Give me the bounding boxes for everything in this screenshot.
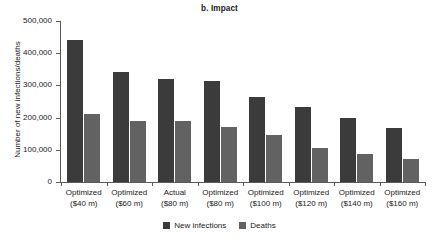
bar-new-infections <box>386 128 402 182</box>
category-label-line2: ($160 m) <box>380 199 426 210</box>
chart-legend: New infectionsDeaths <box>0 221 439 230</box>
y-tick-label: 0 <box>0 177 52 186</box>
x-axis-category-label: Optimized($40 m) <box>61 188 107 209</box>
legend-item[interactable]: Deaths <box>239 221 275 230</box>
x-axis-tick-mark <box>107 182 108 186</box>
x-axis-category-label: Optimized($60 m) <box>107 188 153 209</box>
category-label-line2: ($100 m) <box>243 199 289 210</box>
bar-new-infections <box>340 118 356 182</box>
x-axis-category-label: Optimized($120 m) <box>289 188 335 209</box>
chart-title: b. Impact <box>0 4 439 13</box>
category-label-line2: ($40 m) <box>61 199 107 210</box>
x-axis-tick-mark <box>152 182 153 186</box>
x-axis-tick-mark <box>425 182 426 186</box>
bar-new-infections <box>295 107 311 182</box>
category-label-line2: ($60 m) <box>107 199 153 210</box>
y-tick-label: 100,000 <box>0 145 52 154</box>
x-axis-tick-mark <box>289 182 290 186</box>
bar-deaths <box>266 135 282 182</box>
bar-deaths <box>175 121 191 182</box>
x-axis-tick-mark <box>61 182 62 186</box>
bar-new-infections <box>158 79 174 182</box>
x-axis-category-label: Optimized($100 m) <box>243 188 289 209</box>
bar-deaths <box>312 148 328 182</box>
x-axis-tick-mark <box>380 182 381 186</box>
category-label-line1: Optimized <box>61 188 107 199</box>
bar-new-infections <box>249 97 265 182</box>
legend-swatch-icon <box>239 222 246 229</box>
y-tick-label: 400,000 <box>0 48 52 57</box>
legend-item[interactable]: New infections <box>163 221 226 230</box>
y-axis-tick-labels: 0100,000200,000300,000400,000500,000 <box>0 0 61 240</box>
x-axis-category-label: Optimized($80 m) <box>198 188 244 209</box>
bar-deaths <box>130 121 146 182</box>
category-label-line1: Actual <box>152 188 198 199</box>
category-label-line1: Optimized <box>107 188 153 199</box>
bar-deaths <box>403 159 419 182</box>
bar-deaths <box>221 127 237 182</box>
category-label-line1: Optimized <box>289 188 335 199</box>
x-axis-category-label: Optimized($160 m) <box>380 188 426 209</box>
bar-new-infections <box>204 81 220 182</box>
chart-figure: b. Impact Number of new infections/death… <box>0 0 439 240</box>
bar-deaths <box>84 114 100 182</box>
bar-new-infections <box>113 72 129 182</box>
x-axis-category-label: Optimized($140 m) <box>334 188 380 209</box>
bar-new-infections <box>67 40 83 182</box>
legend-swatch-icon <box>163 222 170 229</box>
category-label-line1: Optimized <box>243 188 289 199</box>
legend-label: New infections <box>174 221 226 230</box>
y-tick-label: 300,000 <box>0 80 52 89</box>
category-label-line2: ($80 m) <box>198 199 244 210</box>
y-tick-label: 500,000 <box>0 16 52 25</box>
x-axis-tick-mark <box>334 182 335 186</box>
category-label-line2: ($80 m) <box>152 199 198 210</box>
category-label-line1: Optimized <box>198 188 244 199</box>
y-tick-label: 200,000 <box>0 113 52 122</box>
legend-label: Deaths <box>250 221 275 230</box>
x-axis-tick-mark <box>198 182 199 186</box>
x-axis-category-label: Actual($80 m) <box>152 188 198 209</box>
category-label-line1: Optimized <box>380 188 426 199</box>
category-label-line2: ($140 m) <box>334 199 380 210</box>
category-label-line1: Optimized <box>334 188 380 199</box>
category-label-line2: ($120 m) <box>289 199 335 210</box>
plot-area <box>61 21 425 182</box>
bar-deaths <box>357 154 373 182</box>
x-axis-tick-mark <box>243 182 244 186</box>
